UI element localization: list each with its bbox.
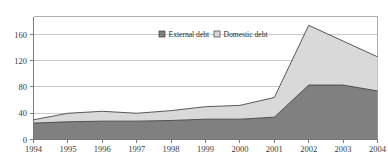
legend-label-external-debt: External debt [169,30,211,39]
x-tick-label: 2001 [266,144,283,154]
x-tick-label: 1998 [163,144,180,154]
y-tick-label: 160 [14,30,27,40]
x-tick-label: 1999 [197,144,214,154]
x-tick-label: 2002 [300,144,317,154]
y-tick-label: 40 [19,108,28,118]
y-tick-label: 80 [19,82,28,92]
y-tick-label: 0 [23,135,27,145]
x-tick-label: 1997 [128,144,145,154]
y-tick-label: 120 [14,56,27,66]
x-tick-label: 1994 [25,144,43,154]
x-tick-label: 2000 [231,144,248,154]
stacked-area-chart: 04080120160 1994199519961997199819992000… [0,0,388,166]
legend-swatch-domestic-debt [214,31,220,37]
x-tick-label: 2003 [335,144,352,154]
legend-label-domestic-debt: Domestic debt [224,30,269,39]
x-tick-label: 2004 [369,144,387,154]
chart-legend: External debt Domestic debt [159,30,268,39]
chart-canvas: 04080120160 1994199519961997199819992000… [0,0,388,166]
legend-swatch-external-debt [159,31,165,37]
x-tick-label: 1996 [94,144,111,154]
x-tick-label: 1995 [59,144,76,154]
